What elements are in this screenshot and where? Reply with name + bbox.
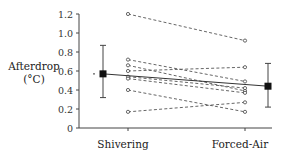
mean-marker <box>265 83 272 90</box>
x-category-label: Forced-Air <box>212 138 269 150</box>
mean-marker <box>100 70 107 77</box>
y-tick-label: 1.0 <box>58 28 73 39</box>
subject-point <box>126 58 129 61</box>
subject-point <box>243 87 246 90</box>
subject-point <box>243 39 246 42</box>
afterdrop-chart: 00.20.40.60.81.01.2ShiveringForced-Air <box>0 0 285 154</box>
subject-point <box>243 66 246 69</box>
subject-point <box>243 101 246 104</box>
y-tick-label: 0.2 <box>58 104 73 115</box>
subject-point <box>243 110 246 113</box>
subject-point <box>126 110 129 113</box>
subject-point <box>126 69 129 72</box>
subject-point <box>243 80 246 83</box>
subject-line <box>128 90 245 112</box>
subject-point <box>243 91 246 94</box>
subject-line <box>128 102 245 112</box>
y-tick-label: 0.4 <box>58 85 73 96</box>
subject-line <box>128 79 245 93</box>
y-tick-label: 0.6 <box>58 66 73 77</box>
x-category-label: Shivering <box>97 138 149 150</box>
annotation-dot <box>93 73 95 75</box>
subject-point <box>126 88 129 91</box>
y-tick-label: 0.8 <box>58 47 73 58</box>
subject-point <box>126 77 129 80</box>
y-tick-label: 0 <box>67 123 73 134</box>
subject-point <box>126 64 129 67</box>
y-tick-label: 1.2 <box>58 9 73 20</box>
subject-point <box>126 12 129 15</box>
subject-line <box>128 14 245 41</box>
